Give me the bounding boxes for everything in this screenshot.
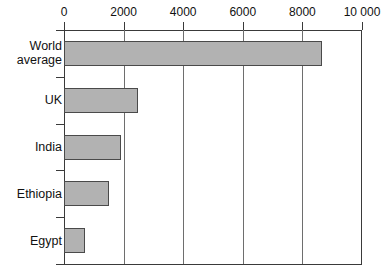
value-axis-tick: [183, 22, 184, 30]
category-label-line: World: [17, 39, 62, 53]
bar: [64, 88, 138, 113]
category-label-line: Egypt: [30, 234, 62, 248]
axis-line-top: [64, 30, 362, 31]
category-label: Egypt: [30, 234, 62, 248]
category-label: Ethiopia: [17, 187, 62, 201]
plot-area: [64, 30, 362, 264]
value-axis-label: 0: [61, 5, 68, 19]
category-label-line: Ethiopia: [17, 187, 62, 201]
category-label-line: UK: [45, 93, 62, 107]
value-axis-tick: [124, 22, 125, 30]
axis-foot-stub: [56, 264, 65, 265]
category-axis-tick: [56, 170, 64, 171]
bar: [64, 41, 322, 66]
value-axis-label: 4000: [170, 5, 197, 19]
category-axis-tick: [56, 124, 64, 125]
bar-chart: 0200040006000800010 000 WorldaverageUKIn…: [0, 0, 382, 278]
bar: [64, 135, 121, 160]
category-axis-tick: [56, 77, 64, 78]
value-axis-tick: [362, 22, 363, 30]
value-axis-label: 2000: [110, 5, 137, 19]
category-label: UK: [45, 93, 62, 107]
category-axis-tick: [56, 217, 64, 218]
axis-line-bottom: [64, 264, 362, 265]
bar: [64, 181, 109, 206]
axis-line-right: [361, 30, 362, 264]
category-label-line: India: [35, 140, 62, 154]
category-label: India: [35, 140, 62, 154]
bar: [64, 228, 85, 253]
category-label: Worldaverage: [17, 39, 62, 67]
value-axis-tick: [243, 22, 244, 30]
value-axis-tick: [64, 22, 65, 30]
value-axis-tick: [302, 22, 303, 30]
value-axis-label: 8000: [289, 5, 316, 19]
value-axis-label: 10 000: [344, 5, 381, 19]
category-label-line: average: [17, 53, 62, 67]
value-axis-label: 6000: [229, 5, 256, 19]
category-axis-tick: [56, 30, 64, 31]
